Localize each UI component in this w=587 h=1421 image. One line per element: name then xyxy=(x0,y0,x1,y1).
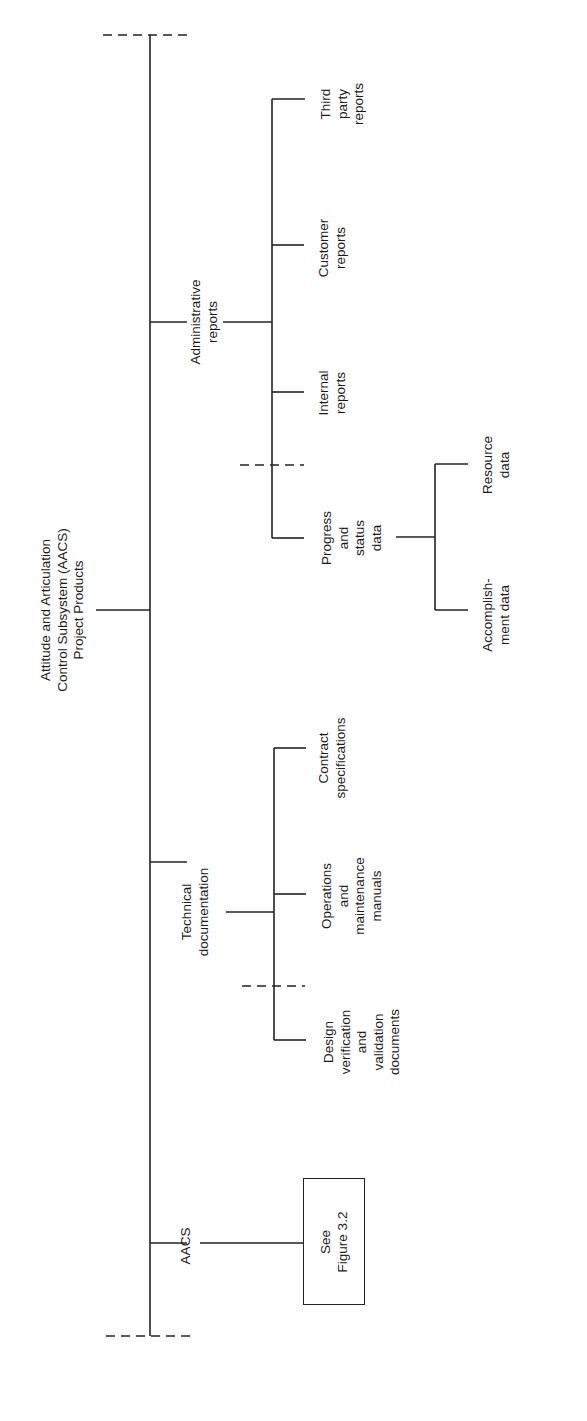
node-label: Administrative reports xyxy=(188,280,221,365)
node-resource-data: Resource data xyxy=(480,436,513,494)
node-internal-reports: Internal reports xyxy=(316,370,349,415)
node-label: Accomplish- ment data xyxy=(480,578,513,652)
node-customer-reports: Customer reports xyxy=(316,219,349,278)
node-label: See Figure 3.2 xyxy=(318,1212,351,1273)
node-accomplishment-data: Accomplish- ment data xyxy=(480,578,513,652)
node-operations-and-maintenance-manuals: Operations and maintenance manuals xyxy=(319,857,385,934)
node-label: Resource data xyxy=(480,436,513,494)
node-label: Operations and maintenance manuals xyxy=(319,857,385,934)
node-label: Customer reports xyxy=(316,219,349,278)
node-technical-documentation: Technical documentation xyxy=(179,868,212,957)
node-contract-specifications: Contract specifications xyxy=(316,717,349,798)
node-label: Technical documentation xyxy=(179,868,212,957)
node-third-party-reports: Third party reports xyxy=(318,83,368,125)
node-aacs: AACS xyxy=(178,1228,195,1265)
root-node-label: Attitude and Articulation Control Subsys… xyxy=(38,528,88,692)
node-label: Third party reports xyxy=(318,83,368,125)
connector-lines xyxy=(0,0,587,1421)
node-label: Progress and status data xyxy=(319,511,385,565)
node-administrative-reports: Administrative reports xyxy=(188,280,221,365)
node-progress-and-status-data: Progress and status data xyxy=(319,511,385,565)
node-label: Internal reports xyxy=(316,370,349,415)
node-design-verification-and-validation-documents: Design verification and validation docum… xyxy=(321,1009,404,1075)
node-label: Design verification and validation docum… xyxy=(321,1009,404,1075)
root-title: Attitude and Articulation Control Subsys… xyxy=(38,528,88,692)
node-label: Contract specifications xyxy=(316,717,349,798)
node-label: AACS xyxy=(178,1228,195,1265)
see-figure-reference-label: See Figure 3.2 xyxy=(318,1212,351,1273)
